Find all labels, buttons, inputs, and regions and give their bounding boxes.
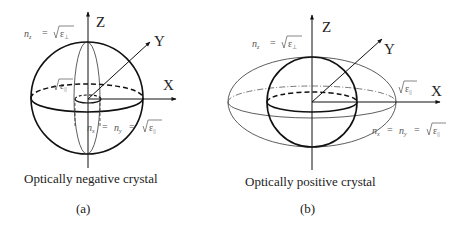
sublabel-a: (a)	[76, 201, 90, 216]
svg-text:nx: nx	[87, 122, 95, 134]
index-ellipsoid-diagram: Z Y X nz = ε⊥ ε|| nx = ny = ε|| Opticall…	[0, 0, 466, 226]
equator-front	[31, 98, 143, 112]
equation-nz: nz = ε⊥	[24, 26, 74, 40]
svg-text:nz: nz	[252, 38, 260, 50]
caption-a: Optically negative crystal	[24, 171, 158, 186]
svg-text:=: =	[129, 121, 135, 132]
sublabel-b: (b)	[300, 201, 315, 216]
svg-text:=: =	[102, 121, 108, 132]
inner-vertical-ellipse	[74, 42, 100, 154]
y-axis	[88, 42, 150, 99]
svg-text:ε||: ε||	[60, 80, 67, 92]
panel-a: Z Y X nz = ε⊥ ε|| nx = ny = ε|| Opticall…	[24, 12, 176, 216]
caption-b: Optically positive crystal	[245, 174, 376, 189]
svg-text:nx: nx	[372, 125, 380, 137]
svg-text:=: =	[42, 27, 48, 38]
index-sphere-outline	[31, 42, 143, 154]
equation-inner-radius: ε||	[54, 79, 73, 92]
equator-back	[31, 84, 143, 98]
svg-text:ny: ny	[114, 122, 122, 134]
svg-text:ε||: ε||	[433, 125, 440, 137]
y-axis-label: Y	[384, 41, 395, 57]
equation-nxy: nx = ny = ε||	[372, 123, 446, 137]
equation-nz: nz = ε⊥	[252, 36, 302, 50]
svg-text:ε⊥: ε⊥	[60, 28, 69, 40]
svg-text:nz: nz	[24, 28, 32, 40]
panel-b: Z Y X nz = ε⊥ ε|| nx = ny = ε|| Opticall…	[228, 15, 446, 216]
x-axis-label: X	[163, 77, 174, 93]
svg-text:ε||: ε||	[149, 122, 156, 134]
equation-outer-radius: ε||	[399, 81, 417, 95]
svg-text:ε⊥: ε⊥	[288, 38, 297, 50]
svg-text:ny: ny	[399, 125, 407, 137]
x-axis-label: X	[431, 83, 442, 99]
z-axis-label: Z	[322, 19, 331, 35]
y-axis-label: Y	[154, 33, 165, 49]
svg-text:=: =	[414, 124, 420, 135]
svg-text:=: =	[270, 37, 276, 48]
svg-text:=: =	[387, 124, 393, 135]
svg-text:ε||: ε||	[405, 83, 412, 95]
z-axis-label: Z	[96, 14, 105, 30]
